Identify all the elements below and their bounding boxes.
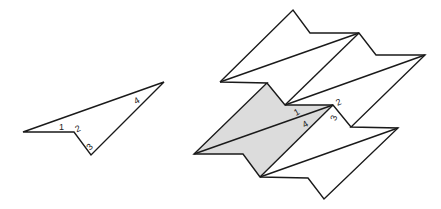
left-label-4: 4: [132, 95, 141, 106]
right-label-2: 2: [334, 97, 343, 108]
tessellation-diagram: 1 2 3 4 1 4 2 3: [0, 0, 441, 209]
left-label-3: 3: [84, 141, 95, 152]
right-assembly: 1 4 2 3: [194, 10, 425, 199]
left-piece-outline: [23, 82, 164, 155]
middle-piece-left-edge: [285, 33, 359, 105]
right-label-3: 3: [328, 114, 339, 122]
middle-piece-diagonal: [285, 55, 425, 105]
left-label-1: 1: [59, 122, 64, 132]
left-piece: 1 2 3 4: [23, 82, 164, 155]
top-piece-diagonal: [220, 33, 359, 82]
